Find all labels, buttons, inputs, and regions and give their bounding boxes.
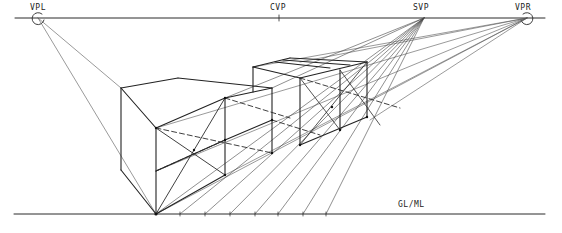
perspective-drawing	[0, 0, 562, 233]
vpr-construction-lines	[156, 18, 527, 214]
cvp-label: CVP	[270, 3, 286, 12]
front-face-diagonals	[156, 98, 225, 214]
svp-label: SVP	[413, 3, 429, 12]
ground-line-label: GL/ML	[398, 200, 425, 209]
vpr-label: VPR	[515, 3, 531, 12]
vpl-label: VPL	[30, 3, 46, 12]
vpl-construction-lines	[38, 18, 156, 214]
